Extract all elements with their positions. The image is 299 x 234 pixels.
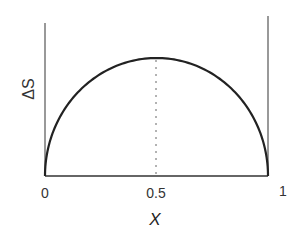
- chart: 0 0.5 1 X ΔS: [0, 0, 299, 234]
- y-axis-label: ΔS: [20, 78, 37, 99]
- x-tick-0.5: 0.5: [146, 185, 166, 201]
- x-tick-1: 1: [279, 183, 287, 199]
- x-axis-label: X: [148, 210, 161, 229]
- x-tick-0: 0: [41, 185, 49, 201]
